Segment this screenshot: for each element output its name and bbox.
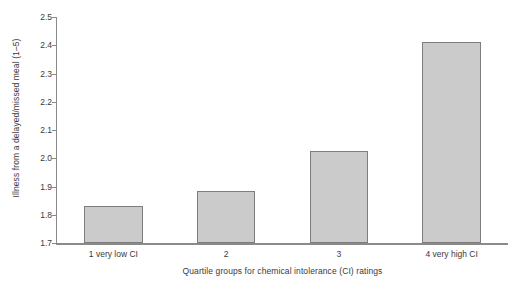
y-axis-tick-mark (52, 130, 56, 131)
x-axis-tick-label: 1 very low CI (57, 248, 170, 260)
y-axis-tick-label: 2.2 (28, 97, 52, 107)
y-axis-tick-label: 1.7 (28, 238, 52, 248)
y-axis-tick-mark (52, 17, 56, 18)
y-axis-tick-mark (52, 102, 56, 103)
y-axis-tick-label: 2.0 (28, 153, 52, 163)
y-axis-tick-label: 2.3 (28, 69, 52, 79)
y-axis-tick-label: 2.1 (28, 125, 52, 135)
x-axis-tick-label: 3 (283, 248, 396, 260)
bar (84, 206, 143, 243)
y-axis-tick-mark (52, 187, 56, 188)
bar (197, 191, 256, 243)
y-axis-tick-mark (52, 215, 56, 216)
x-axis-title: Quartile groups for chemical intolerance… (57, 266, 508, 276)
x-axis-line (56, 243, 508, 245)
y-axis-tick-label: 1.9 (28, 182, 52, 192)
y-axis-tick-label: 2.5 (28, 12, 52, 22)
y-axis-tick-mark (52, 158, 56, 159)
x-axis-tick-label: 4 very high CI (395, 248, 508, 260)
y-axis-tick-mark (52, 45, 56, 46)
y-axis-tick-label: 2.4 (28, 40, 52, 50)
plot-area (57, 17, 508, 243)
y-axis-tick-mark (52, 74, 56, 75)
bar (310, 151, 369, 243)
bar-chart-figure: Illness from a delayed/missed meal (1–5)… (0, 0, 520, 289)
y-axis-tick-labels: 1.71.81.92.02.12.22.32.42.5 (28, 0, 52, 289)
y-axis-title: Illness from a delayed/missed meal (1–5) (7, 0, 25, 243)
y-axis-tick-mark (52, 243, 56, 244)
x-axis-tick-labels: 1 very low CI234 very high CI (57, 248, 508, 262)
bar (422, 42, 481, 243)
x-axis-tick-label: 2 (170, 248, 283, 260)
y-axis-tick-label: 1.8 (28, 210, 52, 220)
